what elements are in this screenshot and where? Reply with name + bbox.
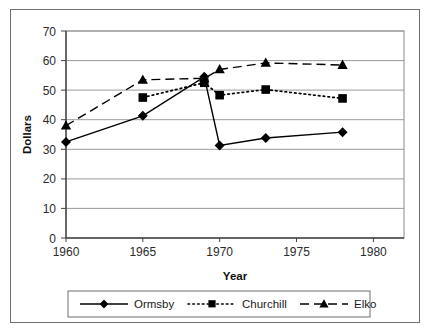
data-point-churchill-1965 — [139, 93, 148, 102]
chart-figure: 70 60 50 40 30 20 10 0 Dollars 1960 1965… — [0, 0, 433, 336]
y-tick-label-50: 50 — [43, 84, 57, 98]
x-axis-title: Year — [223, 270, 248, 282]
y-tick-label-30: 30 — [43, 143, 57, 157]
x-axis — [66, 238, 404, 242]
legend-label-elko: Elko — [354, 298, 376, 310]
y-tick-label-60: 60 — [43, 54, 57, 68]
y-tick-label-0: 0 — [49, 232, 56, 246]
y-tick-labels: 70 60 50 40 30 20 10 0 — [43, 25, 57, 246]
data-point-churchill-1978 — [338, 94, 347, 103]
line-chart: 70 60 50 40 30 20 10 0 Dollars 1960 1965… — [0, 0, 433, 336]
x-tick-label-1965: 1965 — [129, 245, 156, 259]
legend-label-ormsby: Ormsby — [134, 298, 175, 310]
square-marker-icon — [208, 300, 215, 307]
x-tick-label-1975: 1975 — [283, 245, 310, 259]
y-tick-label-40: 40 — [43, 113, 57, 127]
legend-label-churchill: Churchill — [242, 298, 287, 310]
x-tick-label-1970: 1970 — [206, 245, 233, 259]
y-axis-title: Dollars — [21, 115, 33, 154]
x-tick-label-1980: 1980 — [360, 245, 387, 259]
plot-area — [66, 31, 404, 238]
y-tick-label-70: 70 — [43, 25, 57, 39]
x-tick-label-1960: 1960 — [53, 245, 80, 259]
chart-legend: Ormsby Churchill Elko — [68, 291, 376, 317]
data-point-churchill-1970 — [215, 91, 224, 100]
y-axis — [61, 31, 66, 238]
y-tick-label-10: 10 — [43, 202, 57, 216]
y-tick-label-20: 20 — [43, 172, 57, 186]
data-point-churchill-1973 — [261, 85, 270, 94]
x-tick-labels: 1960 1965 1970 1975 1980 — [53, 245, 387, 259]
